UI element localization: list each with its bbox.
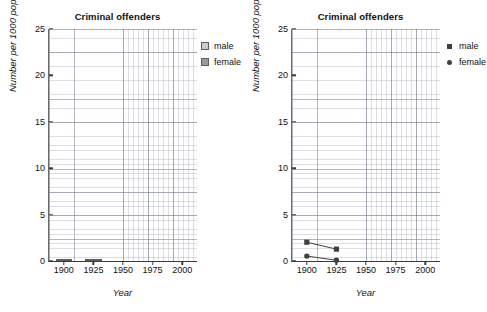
chart-panel-left: Criminal offenders Number per 1000 popul… xyxy=(0,0,243,312)
plot-area-right: 0 5 10 15 20 25 1900 1925 1950 1975 2000 xyxy=(291,29,440,262)
marker-layer xyxy=(292,29,440,261)
y-tick-0: 0 xyxy=(40,256,49,266)
y-tick-15-right: 15 xyxy=(278,117,292,127)
x-tick-1925-right: 1925 xyxy=(326,265,346,275)
x-tick-1900: 1900 xyxy=(54,265,74,275)
legend-right: male female xyxy=(444,38,486,70)
x-tick-mark-1950-right xyxy=(365,261,366,265)
legend-label-male: male xyxy=(214,41,234,51)
x-tick-1950: 1950 xyxy=(113,265,133,275)
x-tick-mark-1975 xyxy=(152,261,153,265)
legend-label-female: female xyxy=(214,57,241,67)
legend-item-male[interactable]: male xyxy=(201,38,241,54)
x-tick-mark-1900 xyxy=(63,261,64,265)
y-tick-20: 20 xyxy=(35,70,49,80)
legend-circle-marker-female-icon xyxy=(444,60,454,65)
figure-canvas: Criminal offenders Number per 1000 popul… xyxy=(0,0,487,312)
x-tick-2000: 2000 xyxy=(172,265,192,275)
legend-item-female[interactable]: female xyxy=(201,54,241,70)
x-tick-mark-1925 xyxy=(93,261,94,265)
legend-label-female-right: female xyxy=(459,57,486,67)
x-tick-mark-2000 xyxy=(181,261,182,265)
x-tick-1925: 1925 xyxy=(83,265,103,275)
bar-segment-female-1925 xyxy=(85,259,101,261)
x-tick-mark-1975-right xyxy=(395,261,396,265)
x-tick-mark-1950 xyxy=(122,261,123,265)
y-tick-5-right: 5 xyxy=(283,210,292,220)
x-tick-2000-right: 2000 xyxy=(415,265,435,275)
legend-label-male-right: male xyxy=(459,41,479,51)
y-tick-25-right: 25 xyxy=(278,24,292,34)
bar-segment-female-1900 xyxy=(56,259,72,261)
legend-item-female-right[interactable]: female xyxy=(444,54,486,70)
page-title-right: Criminal offenders xyxy=(273,11,448,22)
x-tick-mark-1900-right xyxy=(306,261,307,265)
x-tick-1975-right: 1975 xyxy=(386,265,406,275)
x-axis-label-left: Year xyxy=(48,287,197,298)
y-tick-5: 5 xyxy=(40,210,49,220)
x-axis-label-right: Year xyxy=(291,287,440,298)
legend-left: male female xyxy=(201,38,241,70)
page-title: Criminal offenders xyxy=(30,11,205,22)
x-tick-mark-2000-right xyxy=(424,261,425,265)
y-tick-25: 25 xyxy=(35,24,49,34)
chart-panel-right: Criminal offenders Number per 1000 popul… xyxy=(243,0,486,312)
x-tick-1950-right: 1950 xyxy=(356,265,376,275)
plot-area-left: 0 5 10 15 20 25 1900 1925 1950 1975 2000 xyxy=(48,29,197,262)
y-tick-10: 10 xyxy=(35,163,49,173)
legend-square-marker-male-icon xyxy=(444,44,454,49)
y-axis-label-left: Number per 1000 population xyxy=(7,78,18,92)
y-axis-label-right: Number per 1000 population xyxy=(250,78,261,92)
legend-swatch-male-icon xyxy=(201,42,209,50)
y-tick-0-right: 0 xyxy=(283,256,292,266)
y-tick-10-right: 10 xyxy=(278,163,292,173)
legend-item-male-right[interactable]: male xyxy=(444,38,486,54)
y-tick-20-right: 20 xyxy=(278,70,292,80)
x-tick-1975: 1975 xyxy=(143,265,163,275)
y-tick-15: 15 xyxy=(35,117,49,127)
x-tick-1900-right: 1900 xyxy=(297,265,317,275)
legend-swatch-female-icon xyxy=(201,58,209,66)
